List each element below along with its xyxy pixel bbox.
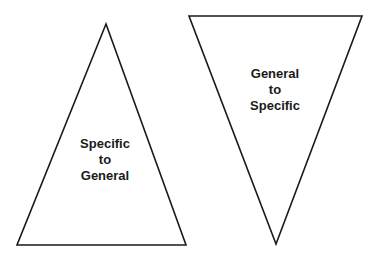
upright-triangle [17, 24, 186, 245]
label-line: to [65, 152, 145, 168]
specific-to-general-label: Specific to General [65, 136, 145, 184]
general-to-specific-label: General to Specific [235, 66, 315, 114]
inverted-triangle [189, 16, 362, 244]
label-line: Specific [235, 98, 315, 114]
label-line: General [65, 168, 145, 184]
label-line: General [235, 66, 315, 82]
label-line: to [235, 82, 315, 98]
diagram-canvas [0, 0, 372, 264]
label-line: Specific [65, 136, 145, 152]
